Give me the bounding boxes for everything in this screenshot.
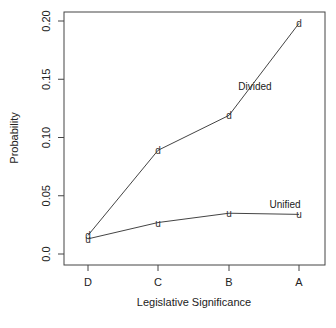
y-tick-label: 0.10 — [40, 127, 52, 148]
point-marker: d — [226, 110, 232, 121]
point-marker: u — [155, 218, 161, 229]
x-tick-label: D — [84, 276, 92, 288]
x-tick-label: B — [225, 276, 232, 288]
y-tick-label: 0.20 — [40, 10, 52, 31]
point-marker: u — [226, 208, 232, 219]
plot-frame — [64, 12, 325, 265]
point-marker: d — [296, 18, 302, 29]
series-label-divided: Divided — [238, 81, 271, 92]
point-marker: d — [155, 145, 161, 156]
y-tick-label: 0.05 — [40, 185, 52, 206]
point-marker: u — [296, 209, 302, 220]
y-tick-label: 0.15 — [40, 69, 52, 90]
y-tick-label: 0.0 — [40, 246, 52, 261]
point-marker: u — [85, 234, 91, 245]
x-axis: DCBA — [84, 265, 303, 288]
chart: 0.00.050.100.150.20 DCBA dddduuuuDivided… — [0, 0, 336, 328]
y-axis-label: Probability — [8, 112, 20, 164]
x-axis-label: Legislative Significance — [137, 296, 251, 308]
line-unified — [88, 213, 299, 239]
series-lines: dddduuuuDividedUnified — [85, 18, 302, 245]
y-axis: 0.00.050.100.150.20 — [40, 10, 64, 261]
x-tick-label: C — [154, 276, 162, 288]
line-divided — [88, 23, 299, 235]
x-tick-label: A — [295, 276, 303, 288]
series-label-unified: Unified — [269, 199, 300, 210]
